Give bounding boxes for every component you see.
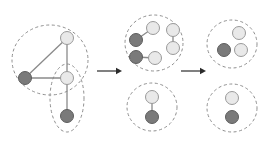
edge-a-b: [25, 38, 67, 78]
node-f-light: [235, 44, 248, 57]
arrow-stage1-to-stage2-head: [116, 68, 122, 74]
node-b-dark: [130, 34, 143, 47]
node-h-light: [167, 42, 180, 55]
node-b-dark: [218, 44, 231, 57]
node-d-dark: [61, 110, 74, 123]
node-c-light: [146, 91, 159, 104]
node-a-light: [233, 27, 246, 40]
figure-root: [0, 0, 269, 142]
arrow-stage2-to-stage3-head: [200, 68, 206, 74]
group-upper-cluster: [207, 20, 257, 68]
node-f-light: [149, 52, 162, 65]
arrow-stage1-to-stage2: [97, 68, 122, 74]
stage-2-split-clusters: [125, 15, 183, 131]
node-a-light: [147, 22, 160, 35]
node-b-dark: [19, 72, 32, 85]
node-d-dark: [146, 111, 159, 124]
node-g-light: [167, 24, 180, 37]
node-d-dark: [226, 111, 239, 124]
node-e-dark: [130, 51, 143, 64]
arrow-stage2-to-stage3: [181, 68, 206, 74]
node-c-light: [61, 72, 74, 85]
node-c-light: [226, 92, 239, 105]
graph-partitioning-figure: [0, 0, 269, 142]
stage-3-final-clusters: [207, 20, 257, 132]
stage-1-original-graph: [12, 25, 88, 132]
node-a-light: [61, 32, 74, 45]
